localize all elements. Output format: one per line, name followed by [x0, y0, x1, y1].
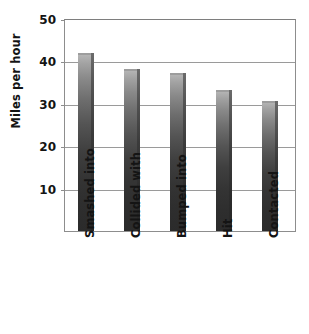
y-tick-label-10: 10 — [26, 184, 56, 196]
y-tick-label-30: 30 — [26, 99, 56, 111]
x-label-collided-with: Collided with — [129, 152, 143, 238]
x-label-smashed-into: Smashed into — [83, 148, 97, 238]
y-tick-label-50: 50 — [26, 14, 56, 26]
bar-chart: Miles per hour 50 40 30 20 10 — [0, 0, 309, 334]
bar-hit[interactable] — [216, 90, 232, 231]
x-label-hit: Hit — [221, 219, 235, 238]
x-label-contacted: Contacted — [267, 171, 281, 238]
y-tick-label-20: 20 — [26, 141, 56, 153]
x-label-bumped-into: Bumped into — [175, 154, 189, 238]
y-tick-label-40: 40 — [26, 56, 56, 68]
bar-side-icon — [229, 90, 232, 231]
y-axis-title: Miles per hour — [9, 21, 23, 141]
